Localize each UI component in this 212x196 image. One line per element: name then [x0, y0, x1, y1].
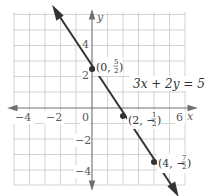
svg-text:7: 7	[182, 154, 186, 162]
y-tick-label: −2	[75, 134, 91, 147]
x-tick-label: 6	[176, 111, 183, 124]
y-tick-label: 4	[82, 38, 89, 51]
coordinate-plane: x y −4 −2 0 6 4 2 −2 −4 3x + 2y = 5 (0, …	[0, 0, 212, 196]
svg-text:2: 2	[114, 67, 118, 75]
arrowhead-down-icon	[169, 183, 177, 194]
svg-text:): )	[119, 61, 123, 74]
point-0-5-2: (0, 5 2 )	[89, 57, 123, 76]
y-tick-label: 2	[82, 69, 89, 82]
point-4-neg-7-2: (4, − 7 2 )	[151, 154, 191, 173]
svg-text:): )	[187, 157, 191, 170]
y-tick-label: −4	[75, 165, 91, 178]
svg-text:(0,: (0,	[96, 61, 111, 74]
x-tick-label: 0	[82, 111, 89, 124]
svg-text:): )	[157, 114, 161, 127]
svg-text:1: 1	[152, 111, 156, 119]
x-tick-label: −4	[15, 111, 31, 124]
point-2-neg-1-2: (2, − 1 2 )	[120, 110, 161, 129]
x-axis	[9, 106, 196, 111]
equation-label: 3x + 2y = 5	[133, 77, 205, 91]
svg-text:2: 2	[182, 163, 186, 171]
svg-text:2: 2	[152, 120, 156, 128]
x-axis-label: x	[187, 110, 194, 123]
y-axis-label: y	[96, 11, 104, 24]
x-tick-label: −2	[46, 111, 62, 124]
svg-text:5: 5	[114, 58, 118, 66]
arrowhead-up-icon	[54, 8, 62, 19]
